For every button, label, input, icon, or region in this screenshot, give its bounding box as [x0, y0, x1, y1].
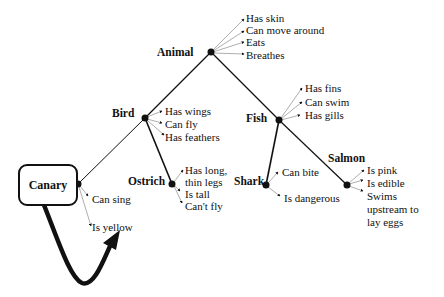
property-ostrich-2: Is tall: [185, 188, 210, 200]
node-label-canary: Canary: [29, 178, 68, 193]
node-bird-dot: [142, 115, 149, 122]
property-bird-3: Has feathers: [165, 131, 220, 143]
retrieval-arrow: [44, 205, 113, 284]
property-animal-1: Has skin: [246, 12, 284, 24]
property-salmon-3: Swims: [367, 190, 397, 202]
property-fish-1: Has fins: [305, 82, 341, 94]
semantic-network-diagram: [0, 0, 444, 297]
node-label-bird: Bird: [112, 107, 134, 119]
property-animal-4: Breathes: [246, 49, 284, 61]
property-bird-2: Can fly: [165, 118, 198, 130]
property-fish-3: Has gills: [305, 109, 344, 121]
node-salmon-dot: [344, 182, 351, 189]
property-shark-2: Is dangerous: [284, 192, 340, 204]
retrieval-arrowhead-icon: [103, 230, 120, 250]
property-canary-2: Is yellow: [92, 221, 133, 233]
property-salmon-3c: lay eggs: [367, 216, 403, 228]
edge-fish-shark: [266, 120, 279, 185]
property-ostrich-1b: thin legs: [185, 176, 223, 188]
property-ostrich-3: Can't fly: [185, 200, 223, 212]
node-label-animal: Animal: [157, 46, 193, 58]
property-salmon-1: Is pink: [367, 164, 397, 176]
node-label-ostrich: Ostrich: [128, 175, 165, 187]
node-box-canary: Canary: [18, 164, 78, 206]
node-label-salmon: Salmon: [328, 152, 365, 164]
property-ostrich-1: Has long,: [185, 164, 227, 176]
node-label-fish: Fish: [246, 112, 267, 124]
node-fish-dot: [276, 117, 283, 124]
edge-animal-fish: [211, 52, 279, 120]
node-ostrich-dot: [169, 181, 176, 188]
property-animal-3: Eats: [246, 36, 265, 48]
property-bird-1: Has wings: [165, 105, 211, 117]
node-label-shark: Shark: [234, 175, 264, 187]
property-salmon-3b: upstream to: [367, 203, 419, 215]
property-salmon-2: Is edible: [367, 177, 405, 189]
node-animal-dot: [208, 49, 215, 56]
property-shark-1: Can bite: [282, 166, 319, 178]
property-canary-1: Can sing: [92, 193, 131, 205]
property-fish-2: Can swim: [305, 96, 349, 108]
property-animal-2: Can move around: [246, 24, 324, 36]
